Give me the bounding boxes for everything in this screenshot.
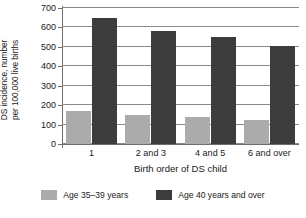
x-tick-label: 1 [62,148,121,158]
x-tick-label: 4 and 5 [181,148,240,158]
y-tick-label: 300 [41,81,56,91]
bar[interactable] [211,37,236,144]
bar[interactable] [66,111,91,144]
chart-figure: DS incidence, number per 100,000 live bi… [0,0,306,218]
legend-swatch [41,190,57,200]
bar[interactable] [244,120,269,144]
y-tick-label: 100 [41,120,56,130]
x-axis-line [62,144,299,145]
y-tick-label: 500 [41,42,56,52]
x-tick-label: 2 and 3 [121,148,180,158]
plot-area: 0100200300400500600700 [62,8,299,144]
y-tick-label: 700 [41,3,56,13]
y-tick-label: 200 [41,100,56,110]
legend-swatch [156,190,172,200]
bar-group [62,8,121,144]
x-tick-label: 6 and over [240,148,299,158]
legend-label: Age 35–39 years [63,190,128,200]
y-tick-mark [58,144,62,145]
y-axis-title: DS incidence, number per 100,000 live bi… [0,5,39,155]
y-tick-label: 400 [41,61,56,71]
bar-group [181,8,240,144]
legend-label: Age 40 years and over [178,190,264,200]
legend-item[interactable]: Age 40 years and over [156,190,264,200]
bar[interactable] [92,18,117,144]
y-tick-label: 600 [41,22,56,32]
bar-group [240,8,299,144]
legend-item[interactable]: Age 35–39 years [41,190,128,200]
chart-legend: Age 35–39 yearsAge 40 years and over [0,190,306,200]
bar-groups [62,8,299,144]
x-axis-title: Birth order of DS child [62,163,299,174]
bar[interactable] [151,31,176,144]
bar[interactable] [185,117,210,144]
x-axis-tick-labels: 12 and 34 and 56 and over [62,148,299,158]
bar[interactable] [270,46,295,144]
bar[interactable] [125,115,150,144]
y-tick-label: 0 [51,139,56,149]
bar-group [121,8,180,144]
